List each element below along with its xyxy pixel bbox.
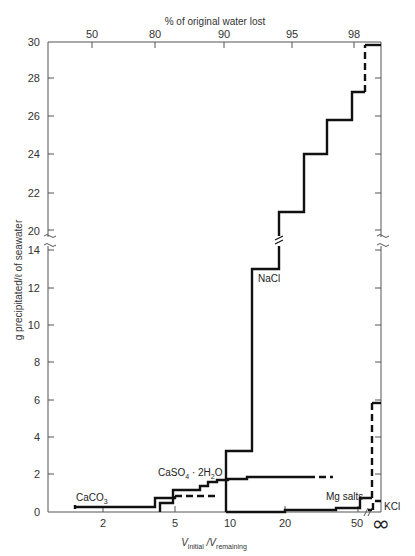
- chart: % of original water lost 50 80 90 95 98: [0, 0, 415, 556]
- y-tick-label: 26: [28, 110, 40, 122]
- y-tick-label: 20: [28, 225, 40, 237]
- y-tick-label: 22: [28, 187, 40, 199]
- label-kcl: KCl: [384, 501, 400, 512]
- top-axis-title: % of original water lost: [165, 16, 266, 27]
- label-nacl: NaCl: [258, 273, 280, 284]
- label-caco3: CaCO3: [76, 492, 108, 505]
- axis-break-left-upper: [44, 235, 56, 238]
- y-tick-label: 6: [34, 394, 40, 406]
- top-tick-label: 80: [149, 28, 161, 40]
- y-tick-label: 30: [28, 36, 40, 48]
- x-tick-label: 5: [172, 517, 178, 529]
- series-caso4: [160, 477, 333, 512]
- x-axis-title-sub2: remaining: [216, 543, 247, 551]
- label-caso4: CaSO4 · 2H2O: [158, 467, 223, 480]
- series-nacl: [226, 45, 381, 512]
- y-tick-label: 8: [34, 356, 40, 368]
- y-tick-label: 12: [28, 282, 40, 294]
- label-mg-salts: Mg salts: [326, 491, 363, 502]
- top-tick-label: 50: [86, 28, 98, 40]
- x-tick-label: 10: [224, 517, 236, 529]
- nacl-break: [275, 236, 283, 244]
- y-tick-label: 10: [28, 319, 40, 331]
- plot-frame: [44, 42, 389, 512]
- series-kcl: [368, 501, 381, 510]
- y-tick-label: 28: [28, 72, 40, 84]
- x-tick-label-infinity: ∞: [372, 511, 390, 536]
- y-tick-label: 14: [28, 244, 40, 256]
- axis-break-right-lower: [377, 244, 389, 247]
- axis-break-left-lower: [44, 244, 56, 247]
- x-tick-label: 2: [100, 517, 106, 529]
- x-axis-title-sub1: initial: [188, 543, 204, 550]
- top-tick-label: 98: [348, 28, 360, 40]
- y-axis-title: g precipitated/ℓ of seawater: [13, 219, 24, 340]
- top-axis-ticks: 50 80 90 95 98: [86, 28, 360, 48]
- y-tick-label: 0: [34, 506, 40, 518]
- x-axis-title: Vinitial /Vremaining: [181, 537, 247, 551]
- x-tick-label: 20: [279, 517, 291, 529]
- axis-break-right-upper: [377, 235, 389, 238]
- y-tick-label: 24: [28, 148, 40, 160]
- y-tick-label: 2: [34, 468, 40, 480]
- x-tick-label: 50: [351, 517, 363, 529]
- bottom-axis-ticks: 2 5 10 20 50 ∞: [100, 506, 390, 536]
- top-tick-label: 95: [286, 28, 298, 40]
- top-tick-label: 90: [218, 28, 230, 40]
- y-tick-label: 4: [34, 431, 40, 443]
